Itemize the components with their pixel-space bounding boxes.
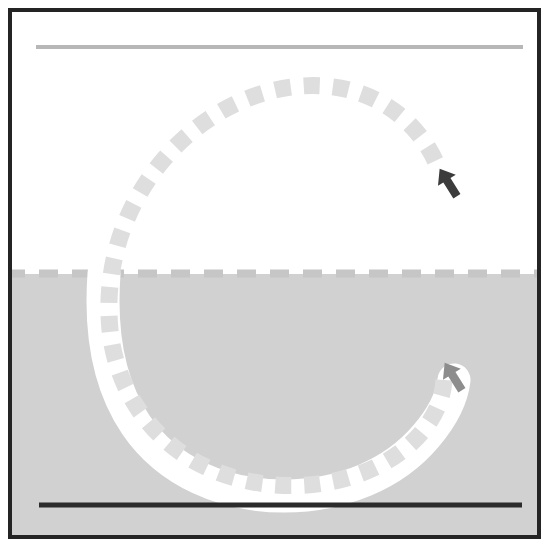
screenshot-root [0, 0, 549, 547]
visualization-frame [8, 8, 541, 539]
upper-region [12, 12, 537, 274]
trajectory-scene [12, 12, 537, 535]
